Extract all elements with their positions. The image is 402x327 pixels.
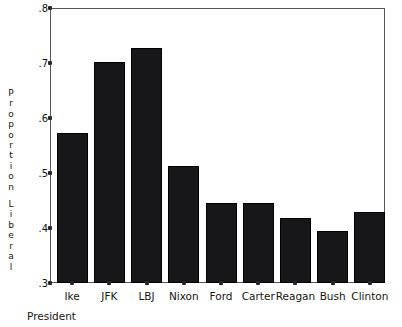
y-axis-label-char: r — [4, 140, 18, 150]
x-tick-label: JFK — [101, 290, 117, 302]
bar-chart: ProportionLiberal .3.4.5.6.7.8 IkeJFKLBJ… — [0, 0, 402, 327]
bar — [168, 166, 199, 283]
x-tick-label: Ford — [210, 290, 233, 302]
bar — [131, 48, 162, 283]
y-axis-label-char: i — [4, 209, 18, 219]
y-axis-label-char: o — [4, 109, 18, 119]
y-axis-label-char: a — [4, 251, 18, 261]
y-axis-label-char: n — [4, 182, 18, 192]
bars-layer — [50, 8, 385, 283]
x-tick-label: Clinton — [351, 290, 388, 302]
x-tick-mark — [107, 281, 111, 285]
y-axis-label-char: l — [4, 262, 18, 272]
x-tick-mark — [182, 281, 186, 285]
y-tick-label: .8 — [26, 3, 48, 14]
bar — [317, 231, 348, 283]
y-axis-label-char: L — [4, 199, 18, 209]
bar — [280, 218, 311, 283]
bar — [57, 133, 88, 283]
y-axis-label-char: r — [4, 98, 18, 108]
x-tick-mark — [70, 281, 74, 285]
y-axis-label-char: e — [4, 230, 18, 240]
bar — [243, 203, 274, 283]
x-tick-mark — [368, 281, 372, 285]
y-axis-label-char: o — [4, 130, 18, 140]
y-tick-label: .5 — [26, 168, 48, 179]
y-axis-label: ProportionLiberal — [4, 88, 18, 272]
y-axis-label-char: P — [4, 88, 18, 98]
x-tick-label: Nixon — [169, 290, 199, 302]
x-tick-label: Ike — [64, 290, 79, 302]
x-tick-label: Carter — [242, 290, 275, 302]
x-tick-label: Bush — [320, 290, 346, 302]
y-axis-label-char: p — [4, 119, 18, 129]
x-tick-mark — [256, 281, 260, 285]
x-tick-mark — [219, 281, 223, 285]
x-axis-title: President — [27, 310, 76, 322]
y-axis-label-char: b — [4, 220, 18, 230]
y-axis-label-char: i — [4, 161, 18, 171]
x-tick-mark — [293, 281, 297, 285]
x-tick-mark — [145, 281, 149, 285]
y-axis-label-char: t — [4, 150, 18, 160]
x-tick-mark — [331, 281, 335, 285]
bar — [354, 212, 385, 283]
y-axis-label-char: o — [4, 171, 18, 181]
y-tick-label: .3 — [26, 278, 48, 289]
y-tick-label: .7 — [26, 58, 48, 69]
x-tick-label: LBJ — [138, 290, 154, 302]
bar — [206, 203, 237, 283]
y-axis-label-word: Proportion — [4, 88, 18, 192]
x-tick-label: Reagan — [276, 290, 315, 302]
y-tick-label: .6 — [26, 113, 48, 124]
bar — [94, 62, 125, 283]
y-tick-label: .4 — [26, 223, 48, 234]
y-axis-label-char: r — [4, 241, 18, 251]
y-axis-label-word: Liberal — [4, 199, 18, 272]
